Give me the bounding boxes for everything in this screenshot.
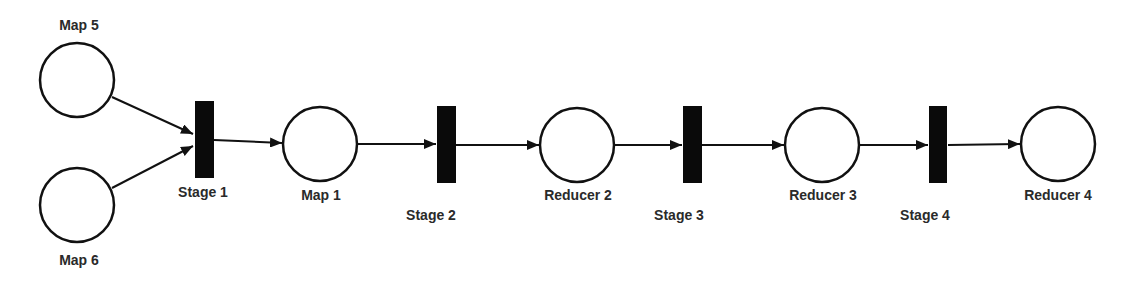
place-map6 bbox=[40, 168, 114, 242]
transition-stage1 bbox=[195, 101, 214, 178]
petri-net-diagram bbox=[0, 0, 1142, 282]
label-reducer2: Reducer 2 bbox=[544, 187, 612, 203]
label-map5: Map 5 bbox=[59, 17, 99, 33]
label-reducer3: Reducer 3 bbox=[789, 187, 857, 203]
place-reducer2 bbox=[540, 108, 614, 182]
arc-map6-stage1 bbox=[112, 146, 193, 188]
label-stage3: Stage 3 bbox=[654, 207, 704, 223]
place-reducer3 bbox=[785, 108, 859, 182]
label-stage1: Stage 1 bbox=[178, 184, 228, 200]
place-map5 bbox=[40, 43, 114, 117]
place-map1 bbox=[283, 107, 357, 181]
place-reducer4 bbox=[1021, 107, 1095, 181]
arc-map5-stage1 bbox=[112, 97, 193, 134]
label-stage4: Stage 4 bbox=[900, 207, 950, 223]
transition-stage4 bbox=[929, 106, 947, 183]
arc-stage1-map1 bbox=[214, 140, 282, 143]
transition-stage3 bbox=[683, 106, 702, 183]
label-stage2: Stage 2 bbox=[406, 207, 456, 223]
label-map6: Map 6 bbox=[59, 252, 99, 268]
label-map1: Map 1 bbox=[301, 187, 341, 203]
arc-stage4-reducer4 bbox=[948, 144, 1020, 145]
transition-stage2 bbox=[437, 106, 456, 183]
label-reducer4: Reducer 4 bbox=[1024, 187, 1092, 203]
